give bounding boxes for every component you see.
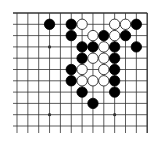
black-stone	[77, 53, 87, 63]
black-stone	[131, 42, 141, 52]
white-stone	[88, 76, 98, 86]
white-stone	[77, 64, 87, 74]
white-stone	[88, 30, 98, 40]
black-stone	[109, 64, 119, 74]
black-stone	[109, 76, 119, 86]
star-point	[48, 45, 51, 48]
white-stone	[99, 64, 109, 74]
go-board[interactable]	[0, 0, 161, 144]
black-stone	[77, 87, 87, 97]
black-stone	[66, 64, 76, 74]
white-stone	[99, 76, 109, 86]
black-stone	[66, 19, 76, 29]
white-stone	[109, 30, 119, 40]
white-stone	[99, 42, 109, 52]
black-stone	[99, 30, 109, 40]
black-stone	[120, 30, 130, 40]
star-point	[48, 113, 51, 116]
black-stone	[109, 42, 119, 52]
white-stone	[109, 19, 119, 29]
black-stone	[109, 53, 119, 63]
white-stone	[88, 53, 98, 63]
black-stone	[66, 30, 76, 40]
black-stone	[44, 19, 54, 29]
white-stone	[77, 76, 87, 86]
white-stone	[99, 53, 109, 63]
black-stone	[66, 76, 76, 86]
black-stone	[88, 98, 98, 108]
black-stone	[88, 42, 98, 52]
black-stone	[77, 42, 87, 52]
star-point	[113, 113, 116, 116]
black-stone	[109, 87, 119, 97]
white-stone	[77, 19, 87, 29]
white-stone	[120, 19, 130, 29]
black-stone	[131, 19, 141, 29]
